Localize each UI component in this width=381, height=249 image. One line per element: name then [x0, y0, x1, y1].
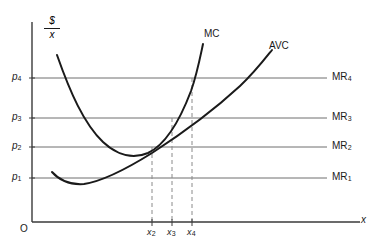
curve-label-mc: MC	[204, 29, 220, 39]
price-label-p2-sub: 2	[18, 144, 22, 151]
mr-label-mr1-base: MR	[332, 171, 348, 182]
mr-label-mr2-sub: 2	[348, 144, 352, 151]
y-axis-label: $ x	[44, 16, 60, 40]
price-label-p3-sub: 3	[18, 115, 22, 122]
quantity-label-x2: x2	[147, 228, 156, 237]
x-axis-label: x	[361, 215, 366, 225]
quantity-label-x3-base: x	[167, 227, 172, 237]
mr-label-mr3-sub: 3	[348, 115, 352, 122]
mr-label-mr4-sub: 4	[348, 75, 352, 82]
mr-label-mr1: MR1	[332, 172, 352, 182]
quantity-label-x4: x4	[187, 228, 196, 237]
mr-label-mr1-sub: 1	[348, 175, 352, 182]
quantity-label-x2-base: x	[147, 227, 152, 237]
price-label-p3: p3	[12, 112, 21, 122]
quantity-label-x3: x3	[167, 228, 176, 237]
price-label-p1: p1	[12, 172, 21, 182]
price-label-p1-sub: 1	[18, 175, 22, 182]
y-axis-label-denominator: x	[44, 30, 60, 41]
mr-label-mr2-base: MR	[332, 140, 348, 151]
mr-label-mr2: MR2	[332, 141, 352, 151]
curve-mc	[57, 44, 203, 156]
price-label-p2: p2	[12, 141, 21, 151]
mr-label-mr3-base: MR	[332, 111, 348, 122]
mr-lines-group	[32, 78, 327, 178]
quantity-label-x4-sub: 4	[192, 230, 196, 237]
mr-label-mr4-base: MR	[332, 71, 348, 82]
quantity-label-x4-base: x	[187, 227, 192, 237]
economics-cost-curve-figure: $ x O x p4 p3 p2 p1 x2 x3 x4 MR4 MR3 MR2…	[0, 0, 381, 249]
mr-label-mr4: MR4	[332, 72, 352, 82]
quantity-label-x3-sub: 3	[172, 230, 176, 237]
origin-label: O	[20, 224, 28, 234]
curve-label-avc: AVC	[269, 41, 289, 51]
price-label-p4-sub: 4	[18, 75, 22, 82]
quantity-label-x2-sub: 2	[152, 230, 156, 237]
price-label-p4: p4	[12, 72, 21, 82]
y-axis-label-numerator: $	[44, 16, 60, 27]
mr-label-mr3: MR3	[332, 112, 352, 122]
